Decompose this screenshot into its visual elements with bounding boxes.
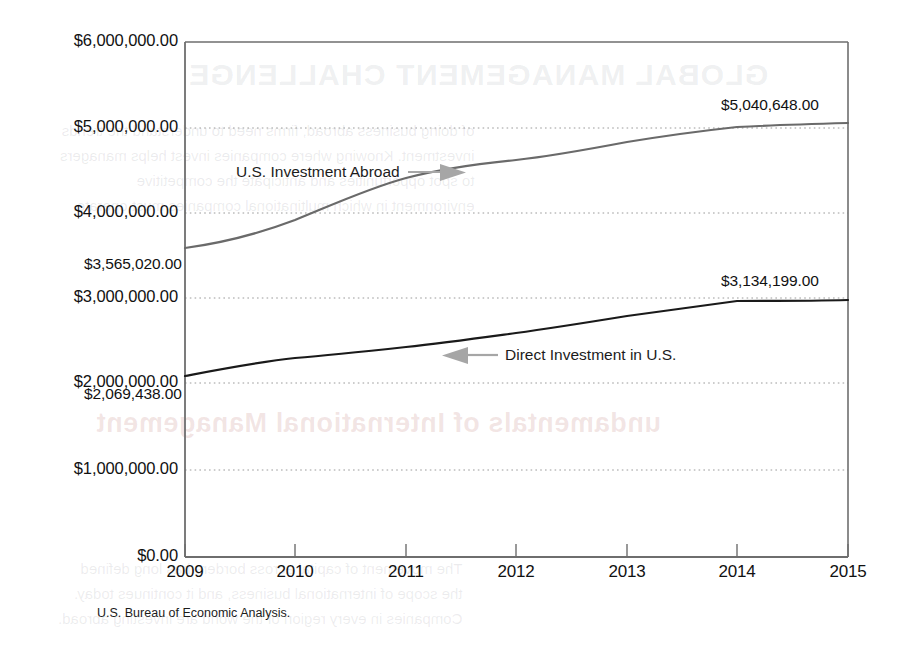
chart-figure: GLOBAL MANAGEMENT CHALLENGE of doing bus… — [0, 0, 919, 653]
series-line-direct-investment-in-us — [185, 300, 848, 376]
chart-plot — [0, 0, 919, 653]
left-arrow-icon — [442, 347, 498, 364]
axis-frame — [185, 42, 848, 557]
series-line-us-investment-abroad — [185, 123, 848, 248]
gridlines — [185, 128, 848, 470]
arrow-head — [442, 347, 468, 364]
source-caption: U.S. Bureau of Economic Analysis. — [97, 606, 290, 620]
x-axis-ticks — [185, 544, 848, 557]
